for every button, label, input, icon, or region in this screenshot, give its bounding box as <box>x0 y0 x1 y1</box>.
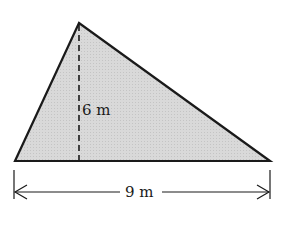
diagram-svg: 6 m 9 m <box>0 0 284 230</box>
base-label: 9 m <box>125 183 154 201</box>
height-label: 6 m <box>82 101 111 119</box>
triangle-shape <box>15 23 270 161</box>
triangle-diagram: 6 m 9 m <box>0 0 284 230</box>
